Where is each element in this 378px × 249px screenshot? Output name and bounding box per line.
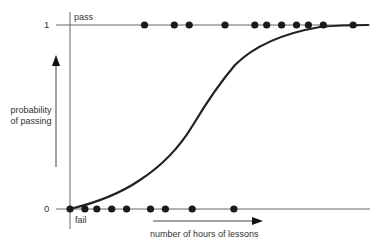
data-point [171,21,178,28]
arrow-up-icon [52,55,60,66]
y-axis-title-line1: probability [7,106,55,115]
data-point [221,21,228,28]
data-point [186,21,193,28]
data-point [305,21,312,28]
y-tick-1: 1 [44,20,49,30]
data-point [66,205,73,212]
data-point [123,205,130,212]
data-point [263,21,270,28]
arrow-right-icon [252,217,263,225]
data-point [230,205,237,212]
y-axis-title-line2: of passing [7,117,55,126]
data-point [162,205,169,212]
x-axis-title: number of hours of lessons [150,230,259,239]
y-tick-0: 0 [44,204,49,214]
data-point [93,205,100,212]
data-point [350,21,357,28]
data-point [293,21,300,28]
fail-label: fail [75,216,87,225]
data-point [320,21,327,28]
data-point [147,205,154,212]
data-point [81,205,88,212]
data-point [278,21,285,28]
data-point [108,205,115,212]
pass-label: pass [74,13,93,22]
data-point [141,21,148,28]
logistic-curve [70,25,368,209]
data-point [189,205,196,212]
logistic-regression-diagram [0,0,378,249]
data-point [251,21,258,28]
